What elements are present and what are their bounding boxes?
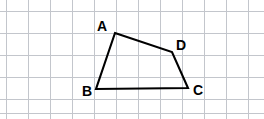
quadrilateral-shape-layer xyxy=(0,0,264,119)
vertex-label-a: A xyxy=(97,19,107,33)
quadrilateral-abcd xyxy=(96,33,188,89)
geometry-figure: ADBC xyxy=(0,0,264,119)
vertex-label-d: D xyxy=(176,38,186,52)
vertex-label-c: C xyxy=(193,83,203,97)
vertex-label-b: B xyxy=(82,84,92,98)
